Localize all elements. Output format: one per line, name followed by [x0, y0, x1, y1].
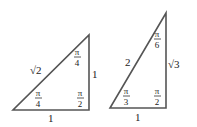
angle-denominator: 2	[78, 99, 83, 109]
hypotenuse-label: 2	[125, 56, 131, 68]
triangle-45-45-90: √2 1 1 π 4 π 4 π 2	[13, 35, 98, 124]
angle-denominator: 4	[75, 58, 80, 68]
triangle-30-60-90: 2 √3 1 π 6 π 3 π 2	[110, 13, 180, 123]
angle-numerator: π	[36, 88, 41, 98]
angle-numerator: π	[124, 86, 129, 96]
vertical-leg-label: √3	[168, 58, 180, 70]
angle-bottom-left: π 3	[123, 86, 130, 107]
angle-top: π 4	[74, 47, 81, 68]
angle-numerator: π	[155, 29, 160, 39]
base-label: 1	[135, 111, 141, 123]
angle-denominator: 3	[124, 97, 129, 107]
special-triangles-diagram: √2 1 1 π 4 π 4 π 2 2 √3 1 π	[0, 0, 197, 127]
angle-right: π 2	[154, 86, 161, 107]
angle-numerator: π	[155, 86, 160, 96]
base-label: 1	[48, 112, 54, 124]
angle-numerator: π	[78, 88, 83, 98]
angle-bottom-left: π 4	[35, 88, 42, 109]
hypotenuse-label: √2	[30, 64, 42, 76]
angle-denominator: 4	[36, 99, 41, 109]
angle-denominator: 6	[155, 40, 160, 50]
angle-denominator: 2	[155, 97, 160, 107]
angle-right: π 2	[77, 88, 84, 109]
vertical-leg-label: 1	[92, 68, 98, 80]
angle-top: π 6	[154, 29, 161, 50]
svg-text:√3: √3	[168, 58, 180, 70]
angle-numerator: π	[75, 47, 80, 57]
